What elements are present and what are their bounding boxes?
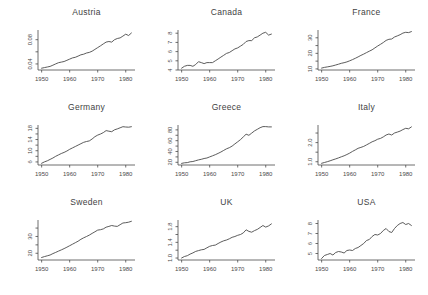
svg-text:1980: 1980 (119, 76, 133, 82)
chart-title: Sweden (0, 194, 140, 210)
line-plot-france: 1950196019701980102030 (280, 20, 420, 99)
svg-text:1970: 1970 (231, 266, 245, 272)
svg-text:5: 5 (307, 252, 313, 255)
svg-text:1.8: 1.8 (167, 223, 173, 231)
chart-panel-sweden: Sweden 19501960197019802030 (0, 194, 140, 289)
svg-text:30: 30 (27, 233, 33, 239)
svg-text:1970: 1970 (231, 171, 245, 177)
svg-text:1980: 1980 (399, 76, 413, 82)
svg-text:0.08: 0.08 (27, 34, 33, 45)
svg-text:1960: 1960 (343, 266, 357, 272)
svg-text:1980: 1980 (259, 266, 273, 272)
svg-text:1950: 1950 (35, 266, 49, 272)
svg-text:1970: 1970 (231, 76, 245, 82)
svg-text:1.0: 1.0 (307, 158, 313, 166)
svg-text:1.4: 1.4 (167, 238, 173, 247)
svg-text:1980: 1980 (119, 266, 133, 272)
svg-text:1970: 1970 (371, 76, 385, 82)
svg-text:1960: 1960 (63, 171, 77, 177)
chart-panel-uk: UK 19501960197019801.01.41.8 (140, 194, 280, 289)
svg-text:6: 6 (27, 160, 33, 163)
svg-text:1.0: 1.0 (167, 254, 173, 262)
svg-text:10: 10 (307, 66, 313, 72)
svg-text:1950: 1950 (315, 171, 329, 177)
svg-text:1980: 1980 (259, 171, 273, 177)
svg-text:6: 6 (307, 242, 313, 245)
svg-text:1980: 1980 (119, 171, 133, 177)
svg-text:1980: 1980 (259, 76, 273, 82)
svg-text:1980: 1980 (399, 266, 413, 272)
svg-text:1950: 1950 (175, 266, 189, 272)
svg-text:1970: 1970 (371, 266, 385, 272)
svg-text:40: 40 (167, 148, 173, 154)
chart-panel-italy: Italy 19501960197019801.02.0 (280, 99, 420, 194)
chart-panel-france: France 1950196019701980102030 (280, 4, 420, 99)
svg-text:8: 8 (167, 32, 173, 35)
svg-text:30: 30 (307, 35, 313, 41)
svg-text:80: 80 (167, 127, 173, 133)
line-plot-sweden: 19501960197019802030 (0, 210, 140, 289)
chart-title: UK (140, 194, 280, 210)
svg-text:1950: 1950 (35, 76, 49, 82)
chart-panel-canada: Canada 195019601970198045678 (140, 4, 280, 99)
svg-text:6: 6 (167, 50, 173, 53)
svg-text:1960: 1960 (343, 171, 357, 177)
svg-text:1960: 1960 (63, 266, 77, 272)
svg-text:0.04: 0.04 (27, 58, 33, 70)
line-plot-germany: 19501960197019806101418 (0, 115, 140, 194)
svg-text:7: 7 (307, 232, 313, 235)
chart-title: Germany (0, 99, 140, 115)
svg-text:1950: 1950 (175, 76, 189, 82)
svg-text:1970: 1970 (91, 76, 105, 82)
svg-text:20: 20 (27, 250, 33, 256)
chart-panel-usa: USA 19501960197019805678 (280, 194, 420, 289)
svg-text:1970: 1970 (371, 171, 385, 177)
svg-text:1970: 1970 (91, 266, 105, 272)
chart-title: Greece (140, 99, 280, 115)
svg-text:2.0: 2.0 (307, 139, 313, 147)
chart-title: France (280, 4, 420, 20)
svg-text:1950: 1950 (315, 76, 329, 82)
svg-text:1960: 1960 (63, 76, 77, 82)
svg-text:7: 7 (167, 41, 173, 44)
chart-title: Austria (0, 4, 140, 20)
line-plot-canada: 195019601970198045678 (140, 20, 280, 99)
line-plot-greece: 195019601970198020406080 (140, 115, 280, 194)
svg-text:1960: 1960 (343, 76, 357, 82)
svg-text:18: 18 (27, 125, 33, 131)
svg-text:1950: 1950 (35, 171, 49, 177)
svg-text:10: 10 (27, 148, 33, 154)
svg-text:20: 20 (307, 50, 313, 56)
svg-text:1950: 1950 (315, 266, 329, 272)
chart-panel-austria: Austria 19501960197019800.040.08 (0, 4, 140, 99)
svg-text:14: 14 (27, 136, 33, 143)
svg-text:1960: 1960 (203, 266, 217, 272)
chart-title: Italy (280, 99, 420, 115)
chart-panel-germany: Germany 19501960197019806101418 (0, 99, 140, 194)
svg-text:1980: 1980 (399, 171, 413, 177)
chart-title: Canada (140, 4, 280, 20)
line-plot-usa: 19501960197019805678 (280, 210, 420, 289)
svg-text:60: 60 (167, 137, 173, 143)
svg-text:1960: 1960 (203, 171, 217, 177)
svg-text:20: 20 (167, 159, 173, 165)
svg-text:1960: 1960 (203, 76, 217, 82)
svg-text:5: 5 (167, 59, 173, 62)
charts-grid: Austria 19501960197019800.040.08 Canada … (0, 0, 428, 295)
line-plot-italy: 19501960197019801.02.0 (280, 115, 420, 194)
svg-text:1950: 1950 (175, 171, 189, 177)
chart-panel-greece: Greece 195019601970198020406080 (140, 99, 280, 194)
chart-title: USA (280, 194, 420, 210)
line-plot-uk: 19501960197019801.01.41.8 (140, 210, 280, 289)
svg-text:8: 8 (307, 222, 313, 225)
svg-text:4: 4 (167, 68, 173, 72)
svg-text:1970: 1970 (91, 171, 105, 177)
line-plot-austria: 19501960197019800.040.08 (0, 20, 140, 99)
